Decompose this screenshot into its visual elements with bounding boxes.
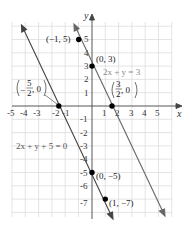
svg-text:-1: -1: [80, 114, 88, 124]
equation-label-1: 2x + y = 3: [103, 67, 141, 77]
point-0-3: [89, 63, 94, 68]
coordinate-plane: x y -5 -4 -3 -1 1 2 3 4 5 -2 5 4 3 2 1 -…: [0, 0, 189, 227]
svg-text:, 0: , 0: [121, 85, 131, 95]
svg-text:2: 2: [84, 74, 89, 84]
label-m5over2-0: − 5 2 , 0: [17, 78, 57, 104]
y-axis-arrow-icon: [90, 14, 95, 20]
svg-text:-7: -7: [80, 198, 88, 208]
label-0-3: (0, 3): [96, 54, 116, 64]
svg-text:-5: -5: [80, 168, 88, 178]
svg-text:3: 3: [129, 108, 134, 118]
point-m1-5: [76, 37, 81, 42]
y-axis-label: y: [83, 10, 89, 21]
arrow-down-icon: [108, 212, 114, 219]
label-1-m7: (1, −7): [109, 198, 134, 208]
svg-text:2: 2: [116, 89, 121, 99]
point-1-m7: [103, 196, 108, 201]
svg-text:5: 5: [155, 108, 160, 118]
svg-text:-3: -3: [33, 108, 41, 118]
equation-label-2: 2x + y + 5 = 0: [16, 141, 68, 151]
label-0-m5: (0, −5): [96, 171, 121, 181]
x-tick-neg2: -2: [52, 108, 60, 118]
svg-text:-2: -2: [80, 128, 88, 138]
svg-text:-5: -5: [7, 108, 15, 118]
svg-text:3: 3: [84, 61, 89, 71]
y-tick-labels: 5 4 3 2 1 -1 -2 -3 -4 -5 -6 -7: [80, 34, 89, 208]
svg-text:−: −: [20, 85, 25, 95]
x-axis-label: x: [176, 108, 182, 119]
svg-text:4: 4: [142, 108, 147, 118]
svg-text:-3: -3: [80, 141, 88, 151]
svg-text:1: 1: [102, 108, 107, 118]
svg-text:2: 2: [27, 88, 32, 98]
svg-text:-4: -4: [20, 108, 28, 118]
point-3over2-0: [109, 103, 114, 108]
svg-text:-6: -6: [80, 181, 88, 191]
svg-text:, 0: , 0: [32, 84, 42, 94]
svg-text:5: 5: [84, 34, 89, 44]
point-0-m5: [89, 170, 94, 175]
label-m1-5: (−1, 5): [46, 34, 71, 44]
label-3over2-0: 3 2 , 0: [112, 79, 137, 99]
svg-text:1: 1: [84, 88, 89, 98]
